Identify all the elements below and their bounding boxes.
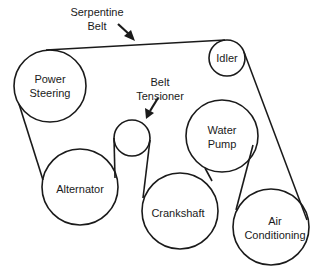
alternator-label: Alternator [56,182,104,196]
crankshaft-label: Crankshaft [151,206,204,220]
serpentine-belt-label: SerpentineBelt [70,5,123,33]
water-pump-label: WaterPump [208,123,237,151]
belt-tensioner-label: BeltTensioner [136,75,184,103]
idler-label: Idler [216,51,237,65]
power-steering-label: PowerSteering [30,72,71,100]
belt-tensioner-pulley [114,120,150,156]
air-conditioning-label: AirConditioning [244,214,305,242]
